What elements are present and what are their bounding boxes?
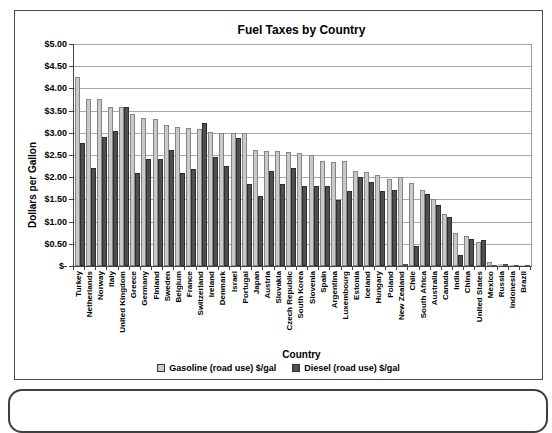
category-slot [330,44,341,266]
bar [325,186,330,266]
y-tick-label: $2.50 [21,150,67,160]
category-label-cell: Australia [430,271,441,349]
category-slot [275,44,286,266]
category-slot [197,44,208,266]
category-slot [119,44,130,266]
category-label: Israel [230,271,240,292]
bar [525,265,530,266]
category-label-cell: Canada [441,271,452,349]
y-tick-label: $2.00 [21,172,67,182]
category-label: Greece [129,271,139,298]
bar [124,107,129,266]
y-tick-label: $4.50 [21,61,67,71]
bar [481,240,486,266]
legend-item: Gasoline (road use) $/gal [157,363,276,373]
y-tick-label: $5.00 [21,39,67,49]
category-label: Australia [430,271,440,305]
category-label-cell: India [452,271,463,349]
category-slot [453,44,464,266]
bar [280,184,285,266]
category-label: New Zealand [397,271,407,320]
bar [224,166,229,266]
category-label-cell: Slovenia [307,271,318,349]
bar [414,246,419,266]
category-slot [152,44,163,266]
bar [146,159,151,266]
category-slot [508,44,519,266]
category-slot [252,44,263,266]
bar-series [74,44,531,266]
category-label-cell: Slovakia [274,271,285,349]
bar [469,239,474,266]
category-slot [486,44,497,266]
category-slot [74,44,85,266]
callout-box [8,389,548,433]
legend-label: Gasoline (road use) $/gal [169,363,276,373]
category-slot [297,44,308,266]
bar [247,184,252,266]
y-tick-label: $0.50 [21,239,67,249]
bar [503,264,508,266]
bar [380,191,385,266]
category-slot [96,44,107,266]
bar [258,196,263,266]
category-label: Japan [252,271,262,294]
bar [135,173,140,266]
category-label: South Africa [419,271,429,318]
bar [91,168,96,266]
category-label: Hungary [374,271,384,303]
category-slot [163,44,174,266]
category-label: Italy [107,271,117,287]
category-label-cell: Ireland [207,271,218,349]
category-label: Argentina [330,271,340,308]
bar [180,173,185,266]
category-slot [219,44,230,266]
category-label-cell: United States [474,271,485,349]
category-label: France [185,271,195,297]
plot-area [73,44,532,267]
category-slot [520,44,531,266]
bar [291,168,296,266]
category-slot [230,44,241,266]
category-label-cell: Russia [496,271,507,349]
category-label-cell: South Korea [296,271,307,349]
bar [436,205,441,266]
category-label: Canada [441,271,451,300]
bar [169,150,174,266]
category-label-cell: Japan [251,271,262,349]
category-label-cell: Sweden [162,271,173,349]
category-label: Germany [140,271,150,306]
category-label: Austria [263,271,273,299]
category-slot [263,44,274,266]
x-axis-category-labels: TurkeyNetherlandsNorwayItalyUnited Kingd… [73,271,530,349]
bar [158,159,163,266]
bar [102,137,107,266]
category-label: Belgium [174,271,184,303]
category-label: South Korea [296,271,306,319]
category-label-cell: Greece [129,271,140,349]
legend: Gasoline (road use) $/galDiesel (road us… [15,363,542,373]
bar [369,182,374,266]
y-tick-label: $1.00 [21,217,67,227]
category-slot [408,44,419,266]
category-label: Indonesia [508,271,518,308]
bar [236,138,241,266]
category-label-cell: Germany [140,271,151,349]
category-slot [397,44,408,266]
category-slot [442,44,453,266]
category-slot [475,44,486,266]
category-label: Russia [497,271,507,297]
category-slot [497,44,508,266]
category-slot [141,44,152,266]
bar [514,265,519,266]
bar [191,169,196,266]
category-slot [174,44,185,266]
bar [113,131,118,266]
category-label: Turkey [74,271,84,297]
bar [425,194,430,266]
category-slot [364,44,375,266]
y-axis-tick-labels: Dollars per Gallon $5.00$4.50$4.00$3.50$… [21,44,67,266]
category-label: Spain [319,271,329,293]
category-slot [353,44,364,266]
